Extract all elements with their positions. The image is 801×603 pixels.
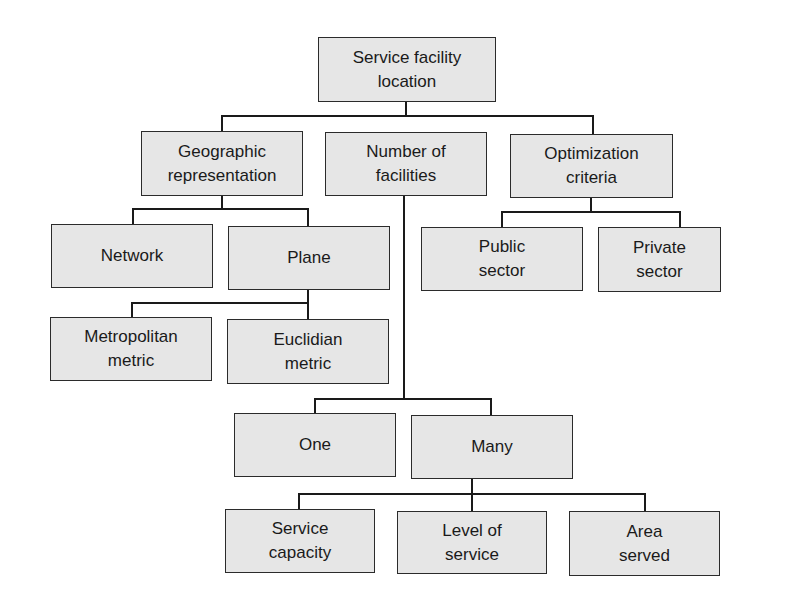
connector [403,194,405,400]
connector [132,208,309,210]
node-network: Network [51,224,213,288]
node-plane: Plane [228,226,390,290]
node-euclidian-metric: Euclidian metric [227,319,389,384]
connector [131,302,133,318]
node-optimization-criteria: Optimization criteria [510,134,673,198]
connector [221,115,223,132]
node-many: Many [411,415,573,479]
connector [644,493,646,512]
node-number-of-facilities: Number of facilities [325,132,487,196]
node-service-capacity: Service capacity [225,509,375,573]
node-private-sector: Private sector [598,227,721,292]
service-facility-location-diagram: Service facility location Geographic rep… [0,0,801,603]
node-public-sector: Public sector [421,227,583,291]
connector [132,208,134,225]
node-area-served: Area served [569,511,720,576]
connector [298,493,646,495]
node-service-facility-location: Service facility location [318,37,496,102]
connector [221,115,594,117]
connector [314,398,492,400]
connector [501,211,503,228]
node-level-of-service: Level of service [397,511,547,574]
connector [298,493,300,510]
connector [307,208,309,227]
connector [307,302,309,320]
connector [679,211,681,228]
connector [501,211,681,213]
connector [314,398,316,414]
node-one: One [234,413,396,477]
connector [592,115,594,134]
node-metropolitan-metric: Metropolitan metric [50,317,212,381]
connector [490,398,492,416]
connector [131,302,309,304]
node-geographic-representation: Geographic representation [141,131,303,196]
